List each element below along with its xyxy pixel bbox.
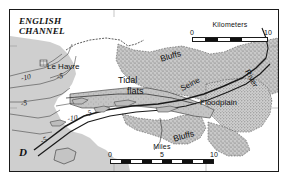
scalebar-kilometers-ticks: 0 10 <box>192 29 268 37</box>
scalebar-km-segment <box>242 38 254 41</box>
scalebar-mi-segment <box>111 160 121 163</box>
scalebar-mi-segment <box>203 160 213 163</box>
scalebar-km-segment <box>218 38 230 41</box>
scalebar-kilometers: Kilometers 0 10 <box>192 21 268 42</box>
scalebar-mi-segment <box>121 160 131 163</box>
scalebar-km-segment <box>205 38 217 41</box>
scalebar-mi-tick-10: 10 <box>210 151 218 158</box>
scalebar-mi-segment <box>172 160 182 163</box>
scalebar-kilometers-bar <box>192 37 268 42</box>
scalebar-km-tick-0: 0 <box>190 29 194 36</box>
scalebar-miles-ticks: 0 5 10 <box>110 151 214 159</box>
contour-label-depth-2: -5 <box>56 71 64 81</box>
scalebar-mi-segment <box>131 160 141 163</box>
scalebar-miles-title: Miles <box>110 143 214 150</box>
scalebar-mi-tick-5: 5 <box>160 151 164 158</box>
scalebar-miles: Miles 0 5 10 <box>110 143 214 164</box>
map-figure: ENGLISH CHANNEL Le Havre Tidal flats Blu… <box>0 0 287 179</box>
scalebar-mi-segment <box>142 160 152 163</box>
scalebar-miles-bar <box>110 159 214 164</box>
scalebar-km-segment <box>230 38 242 41</box>
scalebar-km-segment <box>255 38 267 41</box>
map-frame: ENGLISH CHANNEL Le Havre Tidal flats Blu… <box>9 9 279 172</box>
scalebar-mi-segment <box>162 160 172 163</box>
scalebar-mi-segment <box>152 160 162 163</box>
scalebar-km-segment <box>193 38 205 41</box>
scalebar-km-tick-10: 10 <box>264 29 272 36</box>
contour-label-depth-3: -5 <box>20 98 28 108</box>
scalebar-mi-tick-0: 0 <box>108 151 112 158</box>
contour-label-depth-4: -10 <box>67 113 78 123</box>
le-havre-urban-symbol <box>40 60 47 66</box>
scalebar-kilometers-title: Kilometers <box>192 21 268 28</box>
scalebar-mi-segment <box>182 160 192 163</box>
scalebar-mi-segment <box>193 160 203 163</box>
